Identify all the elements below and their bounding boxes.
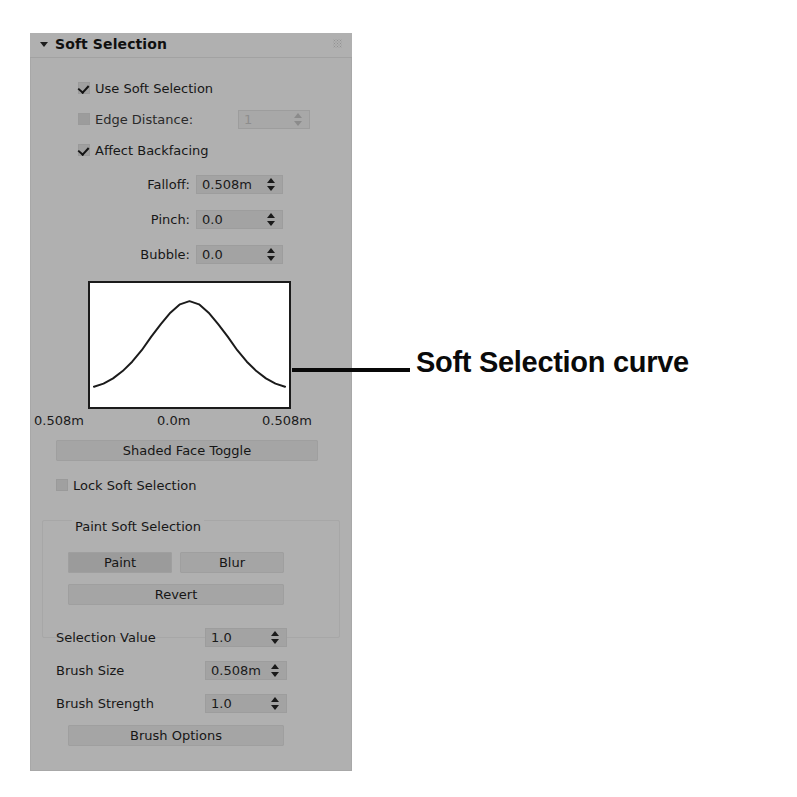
affect-backfacing-row[interactable]: Affect Backfacing: [30, 140, 352, 162]
triangle-down-icon[interactable]: [40, 42, 48, 47]
edge-distance-spinner[interactable]: 1: [238, 110, 310, 129]
bubble-row: Bubble: 0.0: [30, 244, 352, 266]
pinch-value: 0.0: [202, 212, 223, 227]
brush-size-row: Brush Size 0.508m: [30, 660, 352, 682]
leader-line: [292, 368, 410, 372]
falloff-curve-line: [94, 301, 285, 387]
spinner-arrows-icon[interactable]: [294, 113, 303, 126]
brush-size-spinner[interactable]: 0.508m: [205, 661, 287, 680]
brush-strength-value: 1.0: [211, 696, 232, 711]
rollout-title: Soft Selection: [55, 36, 167, 52]
paint-soft-selection-title: Paint Soft Selection: [72, 520, 204, 534]
brush-strength-label: Brush Strength: [56, 697, 154, 711]
selection-value-row: Selection Value 1.0: [30, 627, 352, 649]
pinch-label: Pinch:: [100, 213, 190, 227]
spinner-arrows-icon[interactable]: [271, 697, 280, 710]
brush-strength-row: Brush Strength 1.0: [30, 693, 352, 715]
selection-value-value: 1.0: [211, 630, 232, 645]
spinner-arrows-icon[interactable]: [267, 248, 276, 261]
use-soft-selection-checkbox[interactable]: [78, 82, 90, 94]
affect-backfacing-checkbox[interactable]: [78, 144, 90, 156]
lock-soft-selection-row[interactable]: Lock Soft Selection: [30, 475, 352, 497]
brush-options-label: Brush Options: [130, 728, 222, 743]
shaded-face-toggle-button[interactable]: Shaded Face Toggle: [56, 440, 318, 461]
falloff-value: 0.508m: [202, 177, 252, 192]
edge-distance-row[interactable]: Edge Distance: 1: [30, 109, 352, 131]
paint-button[interactable]: Paint: [68, 552, 172, 573]
falloff-row: Falloff: 0.508m: [30, 174, 352, 196]
edge-distance-checkbox[interactable]: [78, 113, 90, 125]
pinch-row: Pinch: 0.0: [30, 209, 352, 231]
edge-distance-value: 1: [244, 112, 252, 127]
brush-size-value: 0.508m: [211, 663, 261, 678]
revert-button-label: Revert: [155, 587, 198, 602]
axis-label-left: 0.508m: [34, 414, 84, 428]
brush-size-label: Brush Size: [56, 664, 124, 678]
affect-backfacing-label: Affect Backfacing: [95, 144, 209, 158]
rollout-header[interactable]: Soft Selection: [30, 33, 352, 58]
blur-button-label: Blur: [219, 555, 245, 570]
use-soft-selection-row[interactable]: Use Soft Selection: [30, 78, 352, 100]
spinner-arrows-icon[interactable]: [271, 631, 280, 644]
blur-button[interactable]: Blur: [180, 552, 284, 573]
soft-selection-curve-graph: [88, 281, 291, 409]
brush-strength-spinner[interactable]: 1.0: [205, 694, 287, 713]
edge-distance-label: Edge Distance:: [95, 113, 193, 127]
spinner-arrows-icon[interactable]: [267, 178, 276, 191]
curve-plot: [90, 283, 289, 407]
revert-button[interactable]: Revert: [68, 584, 284, 605]
falloff-spinner[interactable]: 0.508m: [196, 175, 283, 194]
spinner-arrows-icon[interactable]: [271, 664, 280, 677]
bubble-value: 0.0: [202, 247, 223, 262]
bubble-label: Bubble:: [100, 248, 190, 262]
drag-grip-icon[interactable]: [333, 39, 342, 48]
falloff-label: Falloff:: [100, 178, 190, 192]
brush-options-button[interactable]: Brush Options: [68, 725, 284, 746]
soft-selection-panel: Soft Selection Use Soft Selection Edge D…: [30, 33, 352, 771]
axis-label-right: 0.508m: [262, 414, 312, 428]
paint-soft-selection-group: [42, 520, 340, 638]
axis-label-center: 0.0m: [157, 414, 190, 428]
selection-value-label: Selection Value: [56, 631, 156, 645]
shaded-face-toggle-label: Shaded Face Toggle: [123, 443, 251, 458]
lock-soft-selection-label: Lock Soft Selection: [73, 479, 196, 493]
spinner-arrows-icon[interactable]: [267, 213, 276, 226]
pinch-spinner[interactable]: 0.0: [196, 210, 283, 229]
bubble-spinner[interactable]: 0.0: [196, 245, 283, 264]
lock-soft-selection-checkbox[interactable]: [56, 479, 68, 491]
selection-value-spinner[interactable]: 1.0: [205, 628, 287, 647]
paint-button-label: Paint: [104, 555, 136, 570]
annotation-label: Soft Selection curve: [416, 346, 689, 379]
use-soft-selection-label: Use Soft Selection: [95, 82, 213, 96]
